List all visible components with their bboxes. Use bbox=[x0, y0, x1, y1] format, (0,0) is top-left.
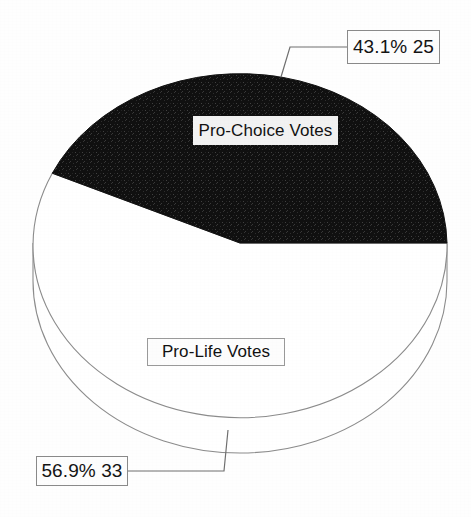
leader-line-pro-choice bbox=[281, 47, 347, 77]
slice-label-pro-life: Pro-Life Votes bbox=[147, 338, 285, 366]
callout-pro-choice-value: 43.1% 25 bbox=[347, 30, 440, 64]
pie-chart-page: Pro-Choice Votes Pro-Life Votes 43.1% 25… bbox=[0, 0, 471, 517]
pie-chart-graphic bbox=[0, 0, 471, 517]
slice-label-pro-choice: Pro-Choice Votes bbox=[193, 116, 338, 145]
callout-pro-life-value: 56.9% 33 bbox=[36, 456, 128, 486]
